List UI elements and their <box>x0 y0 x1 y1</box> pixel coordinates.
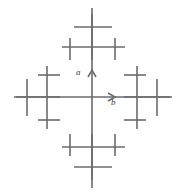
lattice-diagram <box>0 0 184 194</box>
bottom-motif <box>62 134 125 180</box>
lattice-figure: a b <box>0 0 184 194</box>
axes-group <box>16 8 172 188</box>
axis-label-b: b <box>111 98 116 107</box>
top-motif <box>62 14 125 60</box>
axis-label-a: a <box>76 68 81 77</box>
